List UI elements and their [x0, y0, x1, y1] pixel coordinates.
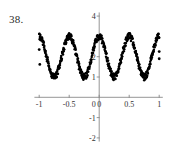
data-point [153, 48, 156, 51]
data-point [78, 62, 81, 65]
data-point [116, 75, 119, 78]
data-point [132, 41, 135, 44]
x-tick-label: -1 [36, 100, 43, 109]
data-point [72, 41, 75, 44]
data-point [93, 46, 96, 49]
data-point [49, 68, 52, 71]
scatter-plot: -1-0.500.51 -2-10124 [26, 6, 168, 148]
figure-container: 38. -1-0.500.51 -2-10124 [0, 0, 172, 152]
data-point [39, 34, 42, 37]
data-point [77, 57, 80, 60]
data-point [106, 57, 109, 60]
data-point [47, 62, 50, 65]
data-point [100, 35, 103, 38]
data-point [125, 42, 128, 45]
y-tick-group: -2-10124 [89, 12, 100, 143]
y-tick-label: -1 [89, 114, 96, 123]
plot-svg: -1-0.500.51 -2-10124 [26, 6, 168, 148]
data-point [91, 54, 94, 57]
data-point [110, 70, 113, 73]
data-point [65, 41, 68, 44]
data-point-outlier [158, 57, 161, 60]
data-point [118, 67, 121, 70]
problem-number-label: 38. [9, 14, 23, 25]
data-point [105, 52, 108, 55]
data-point [123, 48, 126, 51]
data-point [130, 40, 133, 43]
data-point [135, 50, 138, 53]
data-point [74, 49, 77, 52]
data-point [86, 74, 89, 77]
x-tick-label: 0 [97, 100, 101, 109]
data-point-outlier [38, 63, 41, 66]
data-point [56, 76, 59, 79]
data-point [133, 46, 136, 49]
data-point [131, 35, 134, 38]
data-point [57, 72, 60, 75]
data-point [107, 59, 110, 62]
data-point [147, 72, 150, 75]
y-tick-label: 0 [92, 100, 96, 109]
data-point [137, 61, 140, 64]
data-point [61, 58, 64, 61]
data-point [149, 63, 152, 66]
data-point [44, 50, 47, 53]
data-point [104, 47, 107, 50]
data-point-outlier [158, 50, 161, 53]
data-point [121, 55, 124, 58]
x-tick-label: -0.5 [63, 100, 76, 109]
data-point [58, 66, 61, 69]
data-point [87, 71, 90, 74]
data-point [139, 66, 142, 69]
data-point [131, 37, 134, 40]
data-point [60, 55, 63, 58]
y-tick-label: 4 [92, 12, 96, 21]
data-point [114, 78, 117, 81]
data-point [76, 55, 79, 58]
data-point [138, 63, 141, 66]
data-point [101, 37, 104, 40]
data-point-outlier [38, 48, 41, 51]
x-tick-label: 0.5 [124, 100, 134, 109]
data-point [146, 75, 149, 78]
y-tick-label: -2 [89, 134, 96, 143]
data-point [136, 53, 139, 56]
data-point [43, 45, 46, 48]
data-point [120, 61, 123, 64]
data-point [88, 65, 91, 68]
y-tick-label: 1 [92, 73, 96, 82]
data-point [124, 44, 127, 47]
data-point [63, 48, 66, 51]
data-point [81, 71, 84, 74]
data-point [92, 52, 95, 55]
data-point [43, 41, 46, 44]
data-point [133, 44, 136, 47]
data-point [108, 62, 111, 65]
data-point [157, 33, 160, 36]
data-point [109, 68, 112, 71]
data-point [70, 35, 73, 38]
data-point [158, 36, 161, 39]
data-point [93, 49, 96, 52]
data-point [154, 44, 157, 47]
data-point [90, 59, 93, 62]
data-point [62, 53, 65, 56]
x-tick-label: 1 [157, 100, 161, 109]
